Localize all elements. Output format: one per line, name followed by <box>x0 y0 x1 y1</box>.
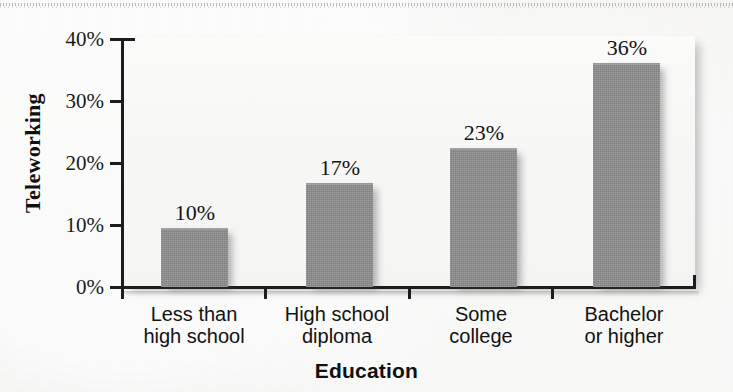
value-label-bachelor-or-higher: 36% <box>577 35 677 61</box>
y-tick-label-30: 30% <box>36 89 104 114</box>
y-tick-30 <box>110 100 122 103</box>
bar-highlight <box>450 148 517 150</box>
bar-highlight <box>593 63 660 65</box>
y-tick-label-20: 20% <box>36 151 104 176</box>
value-label-less-than-high-school: 10% <box>145 200 245 226</box>
x-axis-shadow <box>124 291 699 296</box>
value-label-some-college: 23% <box>434 120 534 146</box>
y-tick-label-40: 40% <box>36 27 104 52</box>
x-category-label-bachelor-or-higher: Bachelor or higher <box>555 303 693 348</box>
bar-highlight <box>161 228 228 230</box>
y-tick-label-10: 10% <box>36 213 104 238</box>
x-tick-end <box>693 275 696 289</box>
y-axis-top-cap <box>121 38 135 41</box>
x-tick-3 <box>551 286 554 299</box>
x-axis-title: Education <box>0 359 733 383</box>
bar-highlight <box>306 183 373 185</box>
x-category-label-some-college: Some college <box>412 303 550 348</box>
bar-some-college[interactable] <box>450 148 517 287</box>
x-tick-start <box>121 286 124 299</box>
value-label-high-school-diploma: 17% <box>290 155 390 181</box>
x-category-label-high-school-diploma: High school diploma <box>268 303 406 348</box>
x-tick-1 <box>264 286 267 299</box>
y-axis-title: Teleworking <box>20 73 46 233</box>
y-tick-10 <box>110 224 122 227</box>
y-tick-20 <box>110 162 122 165</box>
x-tick-2 <box>408 286 411 299</box>
bar-less-than-high-school[interactable] <box>161 228 228 287</box>
bar-bachelor-or-higher[interactable] <box>593 63 660 287</box>
bar-high-school-diploma[interactable] <box>306 183 373 287</box>
top-dotted-rule-secondary <box>0 6 733 8</box>
x-category-label-less-than-high-school: Less than high school <box>125 303 263 348</box>
y-tick-40 <box>110 38 122 41</box>
y-tick-label-0: 0% <box>36 275 104 300</box>
